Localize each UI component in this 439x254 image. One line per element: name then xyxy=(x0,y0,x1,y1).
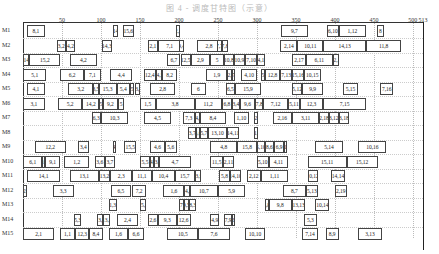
task-bar: 6,10 xyxy=(327,25,339,37)
task-bar: 9,6 xyxy=(240,98,256,110)
task-bar: 5,8 xyxy=(219,170,229,182)
task-bar: 14,2 xyxy=(82,98,99,110)
task-bar: 5,13 xyxy=(306,185,318,197)
row-separator xyxy=(23,212,423,213)
task-bar: 3,2 xyxy=(68,83,93,95)
task-bar: 6,9 xyxy=(274,141,284,153)
task-bar: 4,2 xyxy=(66,40,75,52)
task-bar: 1,10 xyxy=(234,112,250,124)
machine-label: M15 xyxy=(2,230,13,236)
task-bar: 2,4 xyxy=(117,214,139,226)
task-bar: 6,3 xyxy=(92,112,101,124)
task-bar: 1 xyxy=(284,141,287,153)
task-bar: 4,4 xyxy=(110,69,132,81)
task-bar: 7,9 xyxy=(224,214,232,226)
task-bar: 10,10 xyxy=(245,228,264,240)
task-bar: 3,7 xyxy=(188,127,196,139)
task-bar: 9,3 xyxy=(158,214,177,226)
task-bar: 8,9 xyxy=(326,228,339,240)
task-bar: 10,11 xyxy=(297,40,323,52)
task-bar: 1,11 xyxy=(261,170,288,182)
task-bar: 3,13 xyxy=(358,228,381,240)
task-bar: 13,9 xyxy=(195,170,201,182)
gridline xyxy=(413,22,414,238)
task-bar: 7,8 xyxy=(255,98,263,110)
task-bar: 1,2 xyxy=(64,156,89,168)
gridline xyxy=(101,22,102,238)
task-bar: 5,12 xyxy=(292,83,302,95)
machine-label: M3 xyxy=(2,56,10,62)
task-bar: 4 xyxy=(113,141,116,153)
task-bar: 2,17 xyxy=(292,54,306,66)
task-bar: 7,16 xyxy=(380,83,393,95)
task-bar: 6,11 xyxy=(306,54,333,66)
task-bar: 5,4 xyxy=(117,83,130,95)
task-bar: 7,8 xyxy=(222,40,228,52)
task-bar: 3,7 xyxy=(105,156,115,168)
task-bar: 2,3 xyxy=(110,170,132,182)
task-bar: 7,13 xyxy=(280,69,292,81)
task-bar: 10,14 xyxy=(315,199,329,211)
task-bar: 14,10 xyxy=(230,170,242,182)
task-bar: 6,1 xyxy=(23,156,42,168)
machine-label: M7 xyxy=(2,114,10,120)
task-bar: 13,13 xyxy=(292,199,305,211)
task-bar: 6,5 xyxy=(226,83,235,95)
task-bar: 7,1 xyxy=(158,40,181,52)
task-bar: 10,16 xyxy=(358,141,386,153)
machine-label: M8 xyxy=(2,129,10,135)
task-bar: 5,11 xyxy=(288,98,300,110)
task-bar: 2,1 xyxy=(148,40,158,52)
machine-label: M14 xyxy=(2,216,13,222)
task-bar: 7,6 xyxy=(198,228,229,240)
task-bar: 9,8 xyxy=(269,199,292,211)
machine-label: M2 xyxy=(2,42,10,48)
task-bar: 1,6 xyxy=(163,185,184,197)
task-bar: 10,15 xyxy=(304,69,321,81)
task-bar: 14 xyxy=(113,25,118,37)
task-bar: 8,3 xyxy=(189,199,196,211)
task-bar: 9,9 xyxy=(302,83,323,95)
task-bar: 14,13 xyxy=(323,40,366,52)
task-bar: 5 xyxy=(210,54,224,66)
task-bar: 14,1 xyxy=(27,170,61,182)
task-bar: 15,9 xyxy=(235,83,261,95)
task-bar: 1,1 xyxy=(60,228,76,240)
machine-label: M12 xyxy=(2,187,13,193)
task-bar: 9,7 xyxy=(281,25,308,37)
machine-label: M1 xyxy=(2,27,10,33)
task-bar: 2,19 xyxy=(335,185,347,197)
task-bar: 12,1 xyxy=(333,54,339,66)
task-bar: 15,2 xyxy=(29,54,60,66)
machine-label: M6 xyxy=(2,100,10,106)
task-bar: 2,8 xyxy=(150,83,175,95)
task-bar: 3,6 xyxy=(95,156,105,168)
task-bar: 6,5 xyxy=(111,185,130,197)
task-bar: 2,14 xyxy=(280,40,297,52)
task-bar: 8,6 xyxy=(265,141,274,153)
task-bar: 5,7 xyxy=(200,127,208,139)
task-bar: 5,9 xyxy=(218,185,245,197)
task-bar: 12,2 xyxy=(35,141,66,153)
task-bar: 8 xyxy=(377,25,384,37)
task-bar: 10,8 xyxy=(224,54,233,66)
task-bar: 7,3 xyxy=(183,112,195,124)
task-bar: 4,6 xyxy=(150,141,165,153)
task-bar: 9,2 xyxy=(103,98,119,110)
machine-label: M4 xyxy=(2,71,10,77)
task-bar: 15,11 xyxy=(308,156,347,168)
task-bar: 4,10 xyxy=(241,69,257,81)
task-bar: 5,14 xyxy=(315,141,342,153)
task-bar: 14,3 xyxy=(102,40,112,52)
task-bar: 1,12 xyxy=(339,25,366,37)
task-bar: 12,6 xyxy=(177,214,191,226)
x-axis xyxy=(23,22,423,23)
row-separator xyxy=(23,198,423,199)
task-bar: 4,2 xyxy=(70,54,97,66)
task-bar: 15,5 xyxy=(124,141,136,153)
task-bar: 3,4 xyxy=(78,141,90,153)
task-bar: 2,18 xyxy=(319,112,328,124)
task-bar: 15,8 xyxy=(237,141,256,153)
task-bar: 3,3 xyxy=(53,185,74,197)
task-bar: 7,2 xyxy=(132,185,146,197)
